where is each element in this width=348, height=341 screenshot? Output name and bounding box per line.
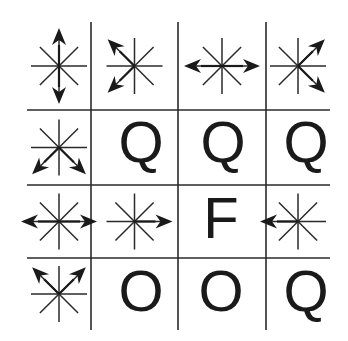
starburst-icon: [184, 38, 260, 94]
letter-q-r1c3: Q: [266, 113, 346, 171]
starburst-icon: [31, 28, 87, 104]
stimulus-grid-figure: Q Q Q F O O Q: [0, 0, 348, 341]
starburst-icon: [31, 120, 87, 176]
letter-q-r1c1: Q: [101, 113, 181, 171]
starburst-icon: [31, 266, 87, 322]
letter-q-r1c2: Q: [183, 113, 263, 171]
starburst-icon: [260, 194, 326, 250]
starburst-icon: [107, 194, 173, 250]
letter-f-r2c2: F: [181, 189, 261, 247]
starburst-icon: [21, 194, 97, 250]
starburst-icon: [270, 38, 326, 94]
letter-q-r3c3: Q: [266, 262, 346, 320]
letter-o-r3c2: O: [181, 262, 261, 320]
starburst-icon: [107, 38, 163, 94]
letter-o-r3c1: O: [101, 262, 181, 320]
